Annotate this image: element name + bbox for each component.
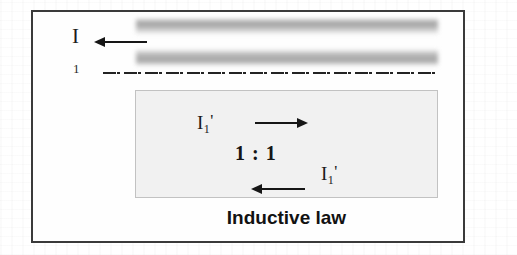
centerline-label: 1 [73, 62, 80, 75]
figure-frame: I 1 I1' 1 : 1 I1' Inductive law [31, 10, 465, 243]
secondary-current-subscript-bottom: 1 [328, 173, 334, 187]
secondary-current-label-bottom: I1' [321, 163, 337, 186]
transformer-box [135, 90, 438, 198]
secondary-current-prime-bottom: ' [334, 162, 337, 181]
secondary-current-symbol-bottom: I [321, 163, 327, 184]
primary-current-arrow-left-icon [94, 37, 105, 47]
secondary-current-symbol-top: I [197, 112, 203, 133]
primary-current-arrow-shaft [105, 41, 147, 43]
secondary-bottom-arrow-shaft [262, 188, 305, 190]
secondary-current-label-top: I1' [197, 112, 213, 135]
secondary-current-subscript-top: 1 [204, 122, 210, 136]
figure-caption: Inductive law [135, 208, 438, 227]
secondary-current-prime-top: ' [210, 111, 213, 130]
flux-band-upper-icon [136, 18, 438, 35]
flux-band-lower-icon [136, 49, 438, 66]
primary-current-label: I [72, 26, 79, 47]
dash-dot-centerline [103, 72, 438, 74]
secondary-top-arrow-right-icon [297, 118, 308, 128]
secondary-top-arrow-shaft [255, 122, 298, 124]
turns-ratio-label: 1 : 1 [235, 143, 277, 163]
secondary-bottom-arrow-left-icon [251, 184, 262, 194]
